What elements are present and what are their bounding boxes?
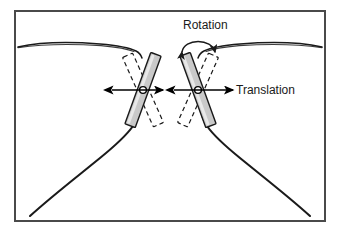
degrees-of-freedom-diagram: Rotation Translation — [0, 0, 340, 234]
translation-label: Translation — [236, 83, 295, 97]
rotation-label: Rotation — [183, 18, 228, 32]
figure-container: Rotation Translation — [0, 0, 340, 234]
